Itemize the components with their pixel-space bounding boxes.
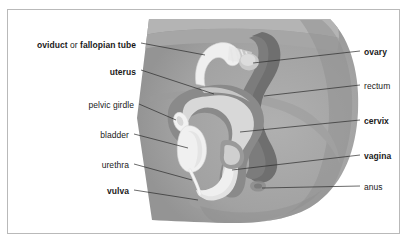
label-urethra: urethra — [24, 161, 129, 170]
label-ovary: ovary — [364, 48, 387, 57]
label-uterus: uterus — [26, 68, 136, 77]
label-fallopian-tube-text: fallopian tube — [80, 40, 136, 50]
label-cervix: cervix — [364, 117, 389, 126]
label-bladder: bladder — [24, 131, 129, 140]
anatomy-illustration — [0, 0, 410, 244]
label-oviduct-fallopian-tube: oviduct or fallopian tube — [16, 41, 136, 50]
label-vagina: vagina — [364, 152, 391, 161]
ovary-organ — [239, 54, 259, 71]
label-oviduct-text: oviduct — [37, 40, 68, 50]
anatomy-figure: oviduct or fallopian tube uterus pelvic … — [0, 0, 410, 244]
anus-region — [250, 181, 266, 192]
label-pelvic-girdle: pelvic girdle — [24, 101, 134, 110]
label-anus: anus — [364, 183, 383, 192]
label-vulva: vulva — [24, 187, 129, 196]
label-or-text: or — [68, 40, 80, 50]
label-rectum: rectum — [364, 82, 390, 91]
